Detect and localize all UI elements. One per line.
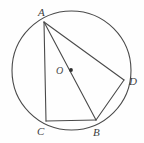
center-label-O: O	[56, 66, 63, 76]
segment-BD	[96, 80, 124, 120]
geometry-figure: A D B C O	[0, 0, 144, 143]
vertex-label-D: D	[129, 76, 137, 87]
vertex-label-A: A	[38, 7, 45, 18]
geometry-canvas	[0, 0, 144, 143]
center-point-dot	[69, 68, 73, 72]
vertex-label-B: B	[93, 127, 100, 138]
vertex-label-C: C	[37, 126, 44, 137]
segment-AC	[44, 22, 46, 121]
segment-CB	[46, 120, 96, 121]
